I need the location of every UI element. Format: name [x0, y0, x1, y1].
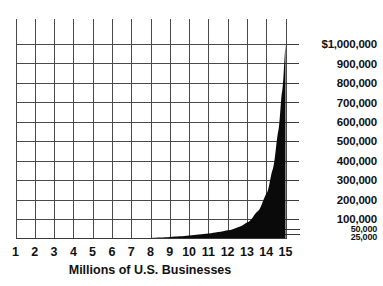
- x-axis-tick-label: 4: [70, 245, 77, 259]
- y-axis-tick-label: 300,000: [337, 174, 377, 186]
- x-axis-tick-label: 3: [51, 245, 58, 259]
- x-axis-labels: 123456789101112131415: [12, 245, 292, 259]
- x-axis-tick-label: 5: [89, 245, 96, 259]
- x-axis-tick-label: 9: [166, 245, 173, 259]
- y-axis-tick-label: 900,000: [337, 58, 377, 70]
- x-axis-tick-label: 12: [221, 245, 235, 259]
- x-axis-tick-label: 14: [259, 245, 273, 259]
- x-axis-title: Millions of U.S. Businesses: [69, 263, 232, 277]
- y-axis-tick-label: 400,000: [337, 155, 377, 167]
- x-axis-tick-label: 13: [240, 245, 254, 259]
- x-axis-tick-label: 15: [279, 245, 293, 259]
- y-axis-tick-label: 25,000: [351, 232, 378, 242]
- x-axis-tick-label: 1: [12, 245, 19, 259]
- y-axis-tick-label: $1,000,000: [321, 38, 377, 50]
- x-axis-tick-label: 2: [31, 245, 38, 259]
- chart-container: $1,000,000900,000800,000700,000600,00050…: [0, 0, 383, 286]
- y-axis-tick-label: 200,000: [337, 194, 377, 206]
- x-axis-tick-label: 10: [182, 245, 196, 259]
- y-axis-tick-label: 500,000: [337, 135, 377, 147]
- y-axis-tick-label: 600,000: [337, 116, 377, 128]
- x-axis-tick-label: 6: [108, 245, 115, 259]
- y-axis-tick-label: 700,000: [337, 97, 377, 109]
- x-axis-tick-label: 8: [147, 245, 154, 259]
- y-axis-tick-label: 800,000: [337, 77, 377, 89]
- x-axis-tick-label: 11: [202, 245, 215, 259]
- business-revenue-area-chart: $1,000,000900,000800,000700,000600,00050…: [0, 0, 383, 286]
- x-axis-tick-label: 7: [128, 245, 135, 259]
